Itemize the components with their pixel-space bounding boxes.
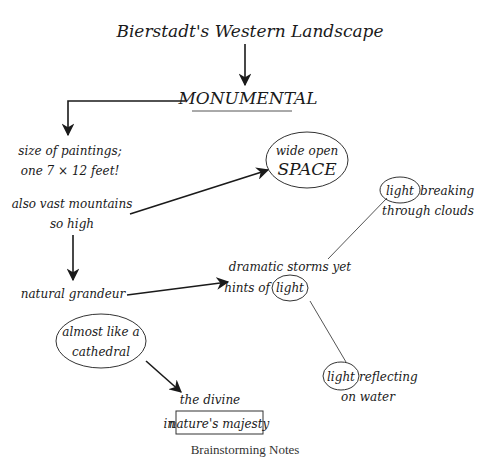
central-node-monumental: MONUMENTAL xyxy=(177,88,317,108)
node-cathedral-line1: almost like a xyxy=(62,325,139,339)
arrow-mountains-to-space xyxy=(130,170,268,214)
node-storms-line1: dramatic storms yet xyxy=(229,260,351,274)
node-clouds-line1-rest: breaking xyxy=(420,184,475,198)
node-space-line1: wide open xyxy=(276,144,338,158)
cathedral-oval xyxy=(56,314,146,368)
node-divine-line1: the divine xyxy=(180,393,240,407)
diagram-title: Bierstadt's Western Landscape xyxy=(115,21,383,41)
node-water-line1-rest: reflecting xyxy=(359,370,418,384)
node-storms-line2-prefix: hints of xyxy=(224,281,272,295)
node-cathedral-line2: cathedral xyxy=(72,345,130,359)
node-mountains-line1: also vast mountains xyxy=(12,197,133,211)
node-storms-line2-circled: light xyxy=(276,281,304,295)
connector-light-to-clouds xyxy=(328,198,387,259)
brainstorm-diagram: Bierstadt's Western Landscape MONUMENTAL… xyxy=(0,0,488,470)
connector-light-to-water xyxy=(310,301,346,362)
arrow-cathedral-to-divine xyxy=(146,361,181,392)
node-clouds-circled: light xyxy=(386,184,414,198)
node-water-circled: light xyxy=(327,370,355,384)
node-size-line2: one 7 × 12 feet! xyxy=(21,164,120,178)
arrow-grandeur-to-storms xyxy=(127,282,228,295)
node-water-line2: on water xyxy=(341,390,396,404)
figure-caption: Brainstorming Notes xyxy=(191,442,300,457)
node-space-line2: SPACE xyxy=(277,159,337,179)
node-size-line1: size of paintings; xyxy=(18,144,121,158)
arrow-monumental-to-size xyxy=(68,101,185,135)
node-grandeur: natural grandeur xyxy=(21,287,127,301)
node-clouds-line2: through clouds xyxy=(382,204,474,218)
node-divine-line2-boxed: nature's majesty xyxy=(169,417,270,431)
node-mountains-line2: so high xyxy=(50,217,94,231)
